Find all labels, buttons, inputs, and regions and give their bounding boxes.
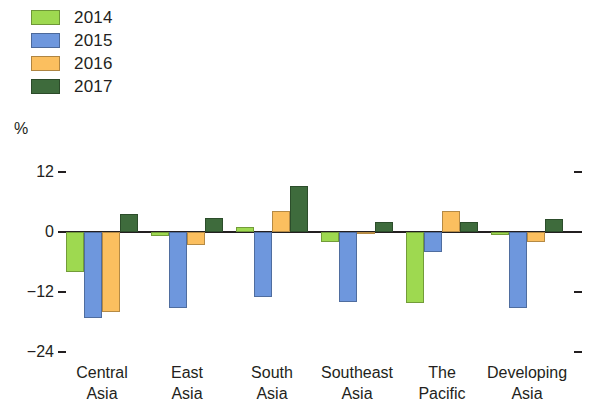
plot-area: 120−12−24 [0, 150, 589, 360]
grouped-bar-chart: 2014 2015 2016 2017 % 120−12−24 CentralA… [0, 0, 589, 407]
bar-south-asia-2015 [254, 232, 272, 297]
y-axis-unit-label: % [14, 120, 28, 138]
y-axis-tick-mark-right [574, 171, 582, 173]
legend-swatch-2016 [31, 56, 60, 71]
bar-central-asia-2016 [102, 232, 120, 312]
bar-east-asia-2014 [151, 232, 169, 236]
legend-label-2016: 2016 [74, 55, 113, 72]
bar-east-asia-2015 [169, 232, 187, 308]
legend-label-2017: 2017 [74, 78, 113, 95]
legend-item: 2015 [31, 29, 181, 52]
bar-southeast-asia-2015 [339, 232, 357, 302]
bar-central-asia-2017 [120, 214, 138, 233]
bar-south-asia-2017 [290, 186, 308, 232]
x-axis-label-developing-asia: DevelopingAsia [472, 362, 582, 404]
bar-the-pacific-2017 [460, 222, 478, 232]
x-axis-label-line: Developing [472, 362, 582, 383]
legend-item: 2016 [31, 52, 181, 75]
bar-the-pacific-2016 [442, 211, 460, 232]
bar-southeast-asia-2014 [321, 232, 339, 242]
y-axis-tick-mark-right [574, 291, 582, 293]
bar-central-asia-2015 [84, 232, 102, 318]
bar-east-asia-2017 [205, 218, 223, 232]
chart-legend: 2014 2015 2016 2017 [31, 6, 181, 98]
legend-swatch-2014 [31, 10, 60, 25]
legend-label-2014: 2014 [74, 9, 113, 26]
legend-label-2015: 2015 [74, 32, 113, 49]
bar-developing-asia-2016 [527, 232, 545, 242]
y-axis-tick-mark [58, 351, 66, 353]
y-axis-tick-mark-right [574, 351, 582, 353]
x-axis-category-labels: CentralAsiaEastAsiaSouthAsiaSoutheastAsi… [0, 362, 589, 407]
legend-swatch-2017 [31, 79, 60, 94]
bar-east-asia-2016 [187, 232, 205, 245]
y-axis-tick-mark [58, 291, 66, 293]
bar-developing-asia-2015 [509, 232, 527, 308]
bar-south-asia-2014 [236, 227, 254, 232]
y-axis-tick-mark [58, 171, 66, 173]
bar-developing-asia-2017 [545, 219, 563, 232]
bar-southeast-asia-2016 [357, 232, 375, 234]
bar-the-pacific-2015 [424, 232, 442, 252]
legend-item: 2017 [31, 75, 181, 98]
y-axis-tick-label: 0 [10, 224, 54, 240]
bar-southeast-asia-2017 [375, 222, 393, 232]
bar-south-asia-2016 [272, 211, 290, 232]
bar-developing-asia-2014 [491, 232, 509, 235]
y-axis-tick-label: −12 [10, 284, 54, 300]
legend-item: 2014 [31, 6, 181, 29]
bar-the-pacific-2014 [406, 232, 424, 303]
y-axis-tick-label: −24 [10, 344, 54, 360]
bar-central-asia-2014 [66, 232, 84, 272]
legend-swatch-2015 [31, 33, 60, 48]
y-axis-tick-label: 12 [10, 164, 54, 180]
x-axis-label-line: Asia [472, 383, 582, 404]
